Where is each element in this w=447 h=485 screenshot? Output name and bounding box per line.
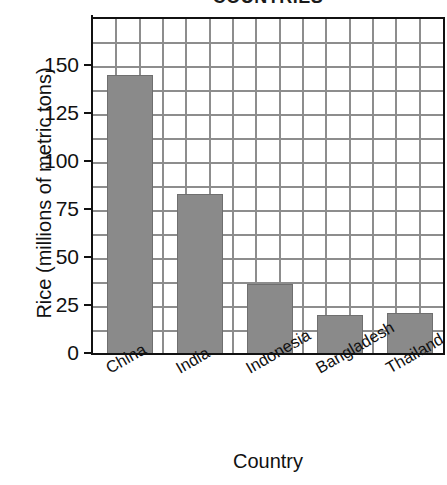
y-tick-label: 75 <box>56 198 79 219</box>
x-axis-title: Country <box>93 450 443 473</box>
y-tick-mark <box>84 304 92 306</box>
y-tick-mark <box>84 352 92 354</box>
y-tick-label: 50 <box>56 246 79 267</box>
y-tick-label: 0 <box>67 342 79 363</box>
y-tick-label: 25 <box>56 294 79 315</box>
bar-china <box>107 75 153 355</box>
bar-india <box>177 194 223 355</box>
chart-title: COUNTRIES <box>93 0 443 8</box>
y-axis-title: Rice (millions of metric tons) <box>33 23 55 363</box>
y-tick-mark <box>84 208 92 210</box>
plot-area <box>93 17 445 355</box>
y-tick-mark <box>84 112 92 114</box>
y-tick-mark <box>84 160 92 162</box>
bar-chart-figure: COUNTRIES 0255075100125150 ChinaIndiaInd… <box>0 0 447 485</box>
y-tick-mark <box>84 64 92 66</box>
y-tick-mark <box>84 256 92 258</box>
bars-container <box>93 19 443 355</box>
